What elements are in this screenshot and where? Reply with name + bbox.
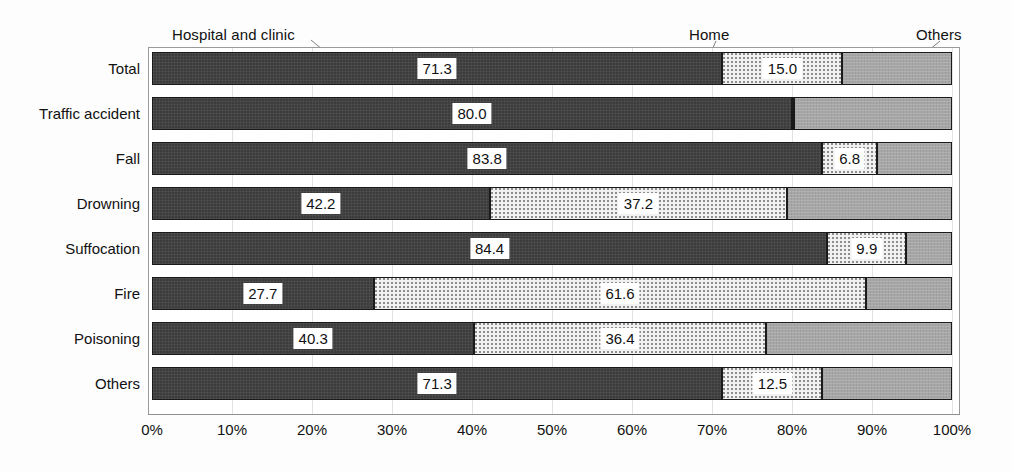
category-label-fall: Fall — [0, 142, 140, 175]
bar-segment-others[interactable] — [906, 232, 952, 265]
bar-segment-others[interactable] — [822, 367, 952, 400]
bar-segment-others[interactable] — [787, 187, 952, 220]
category-label-poisoning: Poisoning — [0, 322, 140, 355]
value-label-hospital-and-clinic: 83.8 — [468, 148, 507, 169]
bar-row[interactable]: 42.237.2 — [152, 187, 952, 220]
value-label-home: 61.6 — [600, 283, 639, 304]
bar-segment-others[interactable] — [766, 322, 952, 355]
x-tick-50: 50% — [537, 421, 567, 438]
category-label-others: Others — [0, 367, 140, 400]
value-label-hospital-and-clinic: 71.3 — [418, 373, 457, 394]
bar-segment-others[interactable] — [866, 277, 952, 310]
category-label-fire: Fire — [0, 277, 140, 310]
category-label-total: Total — [0, 52, 140, 85]
x-tick-80: 80% — [777, 421, 807, 438]
x-tick-30: 30% — [377, 421, 407, 438]
value-label-home: 12.5 — [753, 373, 792, 394]
x-tick-0: 0% — [141, 421, 163, 438]
value-label-hospital-and-clinic: 27.7 — [243, 283, 282, 304]
category-label-drowning: Drowning — [0, 187, 140, 220]
x-tick-60: 60% — [617, 421, 647, 438]
value-label-home: 15.0 — [763, 58, 802, 79]
bar-segment-others[interactable] — [794, 97, 952, 130]
series-label-hospital-and-clinic: Hospital and clinic — [172, 26, 295, 43]
category-label-suffocation: Suffocation — [0, 232, 140, 265]
x-tick-100: 100% — [933, 421, 971, 438]
value-label-home: 9.9 — [851, 238, 882, 259]
category-label-traffic-accident: Traffic accident — [0, 97, 140, 130]
value-label-hospital-and-clinic: 71.3 — [418, 58, 457, 79]
series-label-others: Others — [916, 26, 962, 43]
bar-row[interactable]: 83.86.8 — [152, 142, 952, 175]
bar-row[interactable]: 27.761.6 — [152, 277, 952, 310]
x-tick-70: 70% — [697, 421, 727, 438]
bar-segment-others[interactable] — [877, 142, 952, 175]
value-label-hospital-and-clinic: 42.2 — [301, 193, 340, 214]
x-tick-90: 90% — [857, 421, 887, 438]
bar-row[interactable]: 84.49.9 — [152, 232, 952, 265]
value-label-home: 6.8 — [834, 148, 865, 169]
x-tick-10: 10% — [217, 421, 247, 438]
value-label-home: 36.4 — [600, 328, 639, 349]
bar-segment-others[interactable] — [842, 52, 952, 85]
value-label-hospital-and-clinic: 40.3 — [294, 328, 333, 349]
series-label-home: Home — [689, 26, 729, 43]
bar-row[interactable]: 40.336.4 — [152, 322, 952, 355]
bar-row[interactable]: 71.312.5 — [152, 367, 952, 400]
x-tick-40: 40% — [457, 421, 487, 438]
value-label-hospital-and-clinic: 84.4 — [470, 238, 509, 259]
gridline-100 — [952, 48, 953, 414]
value-label-home: 37.2 — [619, 193, 658, 214]
bar-row[interactable]: 71.315.0 — [152, 52, 952, 85]
bar-row[interactable]: 80.0 — [152, 97, 952, 130]
value-label-hospital-and-clinic: 80.0 — [452, 103, 491, 124]
chart-page: Hospital and clinic Home Others Total71.… — [0, 0, 1012, 472]
x-tick-20: 20% — [297, 421, 327, 438]
x-axis-line — [148, 414, 960, 415]
